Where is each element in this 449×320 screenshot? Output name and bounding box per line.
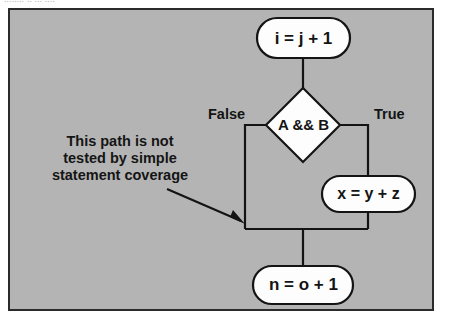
page-top-caption: ........ .. ... ....: [4, 0, 264, 5]
screenshot-root: ........ .. ... .... i = j + 1 A && B x …: [0, 0, 449, 320]
figure-panel: [8, 8, 434, 311]
